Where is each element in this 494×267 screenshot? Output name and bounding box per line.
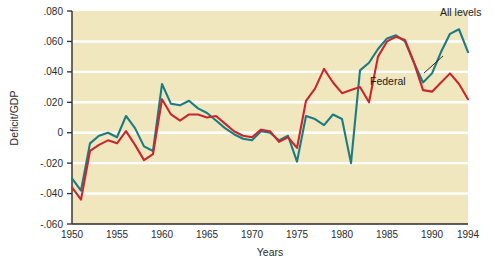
- x-tick-label: 1950: [61, 229, 84, 240]
- x-tick-label: 1980: [331, 229, 354, 240]
- x-tick-label: 1955: [106, 229, 129, 240]
- y-axis-ticks: .080.060.040.0200-.020-.040-.060: [40, 6, 72, 230]
- x-tick-label: 1975: [286, 229, 309, 240]
- y-tick-label: 0: [57, 127, 63, 138]
- plot-background: [72, 11, 468, 224]
- y-tick-label: .060: [44, 36, 64, 47]
- series-label-federal: Federal: [370, 75, 406, 87]
- y-tick-label: -.020: [40, 158, 63, 169]
- x-tick-label: 1960: [151, 229, 174, 240]
- chart-figure: .080.060.040.0200-.020-.040-.060 1950195…: [0, 0, 494, 267]
- x-tick-label: 1990: [421, 229, 444, 240]
- y-tick-label: .080: [44, 6, 64, 17]
- x-axis-ticks: 1950195519601965197019751980198519901994: [61, 229, 480, 240]
- x-axis-title: Years: [257, 246, 283, 258]
- y-tick-label: .040: [44, 66, 64, 77]
- y-tick-label: -.060: [40, 219, 63, 230]
- y-tick-label: -.040: [40, 188, 63, 199]
- deficit-gdp-line-chart: .080.060.040.0200-.020-.040-.060 1950195…: [0, 0, 494, 267]
- x-tick-label: 1985: [376, 229, 399, 240]
- x-tick-label: 1994: [457, 229, 480, 240]
- x-tick-label: 1965: [196, 229, 219, 240]
- y-axis-title: Deficit/GDP: [8, 91, 20, 146]
- x-tick-label: 1970: [241, 229, 264, 240]
- series-label-all-levels: All levels: [440, 6, 481, 18]
- y-tick-label: .020: [44, 97, 64, 108]
